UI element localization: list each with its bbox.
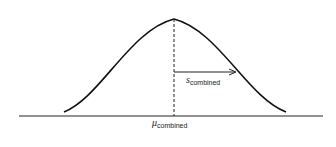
normal-curve bbox=[64, 19, 286, 112]
std-dev-label: scombined bbox=[186, 74, 220, 86]
std-dev-subscript: combined bbox=[190, 79, 220, 86]
mean-subscript: combined bbox=[157, 122, 187, 129]
mean-label: μcombined bbox=[152, 117, 187, 129]
